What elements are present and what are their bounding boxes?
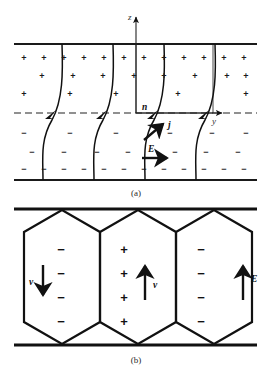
panel-a-E-label: E xyxy=(147,144,154,154)
hex-cell-2-velocity-label: v xyxy=(153,280,158,290)
field-line-arrowheads xyxy=(45,110,209,119)
svg-text:−: − xyxy=(94,147,99,157)
svg-text:+: + xyxy=(81,53,86,63)
svg-text:−: − xyxy=(21,164,26,174)
svg-text:−: − xyxy=(167,128,172,138)
svg-text:+: + xyxy=(192,71,197,81)
svg-text:+: + xyxy=(39,71,44,81)
svg-text:+: + xyxy=(224,71,229,81)
svg-text:+: + xyxy=(61,53,66,63)
panel-a-j-vector xyxy=(144,124,163,140)
svg-text:−: − xyxy=(203,147,208,157)
svg-text:+: + xyxy=(120,242,128,257)
svg-text:−: − xyxy=(209,128,214,138)
svg-text:+: + xyxy=(21,89,26,99)
svg-text:−: − xyxy=(81,164,86,174)
svg-text:−: − xyxy=(201,164,206,174)
svg-text:+: + xyxy=(67,89,72,99)
field-line xyxy=(43,44,63,180)
svg-text:−: − xyxy=(197,314,205,329)
panel-b-caption: (b) xyxy=(131,355,142,365)
hex-cell-2 xyxy=(100,210,176,344)
panel-a-n-label: n xyxy=(142,102,147,112)
svg-text:+: + xyxy=(100,71,105,81)
hex-cell-1-velocity-label: v xyxy=(29,277,34,287)
field-line xyxy=(196,44,216,180)
svg-text:−: − xyxy=(21,128,26,138)
svg-text:+: + xyxy=(120,314,128,329)
svg-text:−: − xyxy=(181,164,186,174)
svg-text:−: − xyxy=(161,164,166,174)
svg-text:+: + xyxy=(21,53,26,63)
svg-text:−: − xyxy=(125,147,130,157)
panel-a-caption: (a) xyxy=(131,188,141,198)
svg-text:−: − xyxy=(29,147,34,157)
field-line xyxy=(94,44,114,180)
svg-text:+: + xyxy=(243,71,248,81)
svg-text:−: − xyxy=(197,266,205,281)
svg-text:+: + xyxy=(120,266,128,281)
svg-text:−: − xyxy=(61,164,66,174)
svg-text:−: − xyxy=(57,290,65,305)
svg-text:−: − xyxy=(121,164,126,174)
svg-text:+: + xyxy=(70,71,75,81)
svg-text:+: + xyxy=(41,53,46,63)
svg-text:+: + xyxy=(113,89,118,99)
panel-a-y-axis-label: y xyxy=(211,116,216,126)
panel-a: z y n j E xyxy=(14,12,257,198)
svg-text:+: + xyxy=(221,53,226,63)
svg-text:−: − xyxy=(243,128,248,138)
svg-text:−: − xyxy=(67,128,72,138)
svg-text:+: + xyxy=(201,53,206,63)
svg-text:+: + xyxy=(120,290,128,305)
svg-text:+: + xyxy=(141,53,146,63)
svg-text:−: − xyxy=(113,128,118,138)
svg-text:+: + xyxy=(131,71,136,81)
panel-a-z-axis-label: z xyxy=(127,12,132,22)
svg-text:+: + xyxy=(241,53,246,63)
panel-b-E-label: E xyxy=(250,274,257,284)
panel-b: − − − − v + + + + v − − − − xyxy=(14,209,257,365)
svg-text:+: + xyxy=(243,89,248,99)
svg-text:−: − xyxy=(57,266,65,281)
physics-figure: z y n j E xyxy=(0,0,272,373)
svg-text:−: − xyxy=(221,164,226,174)
svg-text:−: − xyxy=(197,242,205,257)
svg-text:−: − xyxy=(235,147,240,157)
field-line xyxy=(145,44,165,180)
svg-text:−: − xyxy=(61,147,66,157)
svg-text:−: − xyxy=(41,164,46,174)
svg-text:+: + xyxy=(181,53,186,63)
svg-text:+: + xyxy=(161,71,166,81)
svg-text:+: + xyxy=(161,53,166,63)
panel-a-negative-charges: − − − − − − − − − − − − − − − − − − xyxy=(21,128,248,174)
svg-text:+: + xyxy=(121,53,126,63)
svg-text:−: − xyxy=(57,242,65,257)
svg-text:−: − xyxy=(57,314,65,329)
hex-cell-3 xyxy=(176,210,252,344)
hex-cell-2-charges: + + + + xyxy=(120,242,128,329)
hex-cell-1-charges: − − − − xyxy=(57,242,65,329)
svg-text:+: + xyxy=(175,89,180,99)
svg-text:−: − xyxy=(141,164,146,174)
svg-text:−: − xyxy=(172,147,177,157)
hex-cell-3-charges: − − − − xyxy=(197,242,205,329)
svg-text:−: − xyxy=(197,290,205,305)
svg-text:−: − xyxy=(241,164,246,174)
svg-text:−: − xyxy=(101,164,106,174)
svg-text:+: + xyxy=(101,53,106,63)
